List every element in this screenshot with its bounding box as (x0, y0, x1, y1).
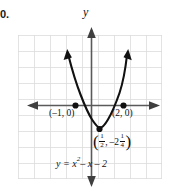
vertex-comma: , (105, 137, 107, 147)
vertex-close-paren: ) (126, 133, 132, 150)
x-axis (27, 101, 160, 110)
vertex-x-numerator: 1 (99, 133, 105, 140)
equation-exponent: 2 (77, 155, 81, 163)
graph-figure: 0. (0, 0, 169, 190)
vertex-x-denominator: 2 (99, 141, 105, 149)
vertex-open-paren: ( (93, 133, 99, 150)
y-axis-label: y (83, 5, 88, 20)
equation-label: y = x2– x – 2 (56, 157, 107, 169)
label-root-left: (–1, 0) (49, 108, 74, 118)
label-root-right: (2, 0) (112, 108, 133, 118)
equation-lhs: y = x (56, 158, 77, 169)
label-vertex: ( 1 2 , –2 1 4 ) (93, 133, 131, 150)
vertex-y-numerator: 1 (120, 133, 126, 140)
equation-rest: – x – 2 (80, 158, 107, 169)
vertex-y-fraction: 1 4 (120, 133, 126, 149)
vertex-x-fraction: 1 2 (99, 133, 105, 149)
vertex-y-integer: –2 (110, 137, 120, 147)
vertex-y-denominator: 4 (120, 141, 126, 149)
